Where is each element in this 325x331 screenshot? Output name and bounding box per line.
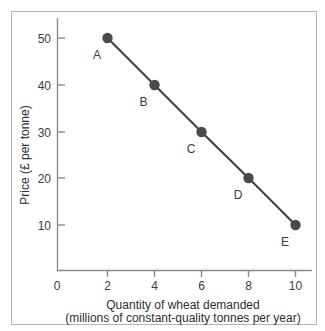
data-point-label-e: E [281,235,289,249]
data-point-d[interactable] [243,173,253,183]
x-tick-label-4: 4 [151,279,158,293]
x-tick-label-2: 2 [104,279,111,293]
y-axis-title: Price (£ per tonne) [18,105,32,204]
x-axis-title-line2: (millions of constant-quality tonnes per… [65,311,300,325]
y-tick-label-40: 40 [38,79,52,93]
data-point-e[interactable] [290,220,300,230]
data-point-label-b: B [139,95,147,109]
x-tick-label-6: 6 [198,279,205,293]
x-tick-label-10: 10 [289,279,303,293]
demand-curve-chart: 50 40 30 20 10 0 2 4 6 8 10 A B C D [0,0,325,331]
y-tick-label-30: 30 [38,126,52,140]
x-tick-label-0: 0 [54,279,61,293]
y-tick-label-50: 50 [38,32,52,46]
y-tick-label-10: 10 [38,219,52,233]
data-point-label-d: D [234,188,243,202]
y-tick-label-20: 20 [38,172,52,186]
demand-curve-figure: 50 40 30 20 10 0 2 4 6 8 10 A B C D [0,0,325,331]
data-point-label-a: A [93,48,101,62]
data-point-a[interactable] [102,33,112,43]
data-point-b[interactable] [149,80,159,90]
x-axis-ticks [108,271,296,278]
x-tick-label-8: 8 [245,279,252,293]
data-point-label-c: C [187,142,196,156]
y-axis-ticks [58,38,66,225]
x-axis-title-line1: Quantity of wheat demanded [106,298,259,312]
data-point-c[interactable] [196,127,206,137]
